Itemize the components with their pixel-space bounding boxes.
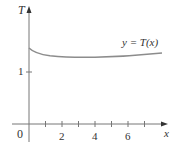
y-tick-label-1: 1 (18, 66, 24, 77)
x-tick-label-4: 4 (92, 131, 98, 142)
x-axis-arrow-icon (161, 122, 168, 127)
y-axis-label: T (18, 4, 25, 16)
y-axis-arrow-icon (27, 6, 32, 13)
chart-canvas (0, 0, 176, 147)
x-tick-label-6: 6 (125, 131, 131, 142)
curve-T (29, 48, 162, 57)
curve-label: y = T(x) (122, 37, 158, 48)
x-axis-label: x (164, 128, 169, 139)
origin-label: 0 (17, 128, 23, 140)
x-tick-label-2: 2 (59, 131, 65, 142)
